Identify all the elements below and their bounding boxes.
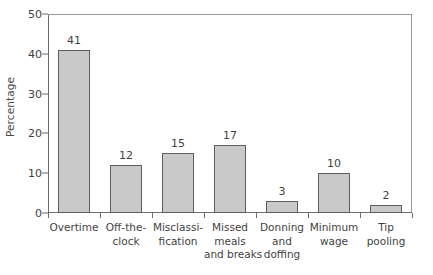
x-axis-category-label-line: doffing bbox=[256, 248, 308, 262]
bar-value-label: 41 bbox=[67, 35, 81, 46]
x-axis-category-label-line: Minimum bbox=[308, 221, 360, 235]
x-axis-tick-mark bbox=[360, 213, 361, 218]
bar-value-label: 15 bbox=[171, 138, 185, 149]
x-axis-tick-mark bbox=[256, 213, 257, 218]
x-axis-category-labels: OvertimeOff-the-clockMisclassi-ficationM… bbox=[48, 221, 412, 273]
bar bbox=[58, 50, 90, 213]
bar-value-label: 3 bbox=[279, 186, 286, 197]
x-axis-category-label-line: clock bbox=[100, 235, 152, 249]
y-axis-tick-label: 40 bbox=[18, 48, 42, 59]
bar-slot: 15 bbox=[152, 14, 204, 213]
x-axis-category-label-line: Misclassi- bbox=[152, 221, 204, 235]
y-axis-tick-labels: 01020304050 bbox=[18, 0, 42, 275]
x-axis-tick-mark bbox=[100, 213, 101, 218]
bar-slot: 10 bbox=[308, 14, 360, 213]
x-axis-category-label-line: Donning bbox=[256, 221, 308, 235]
bar-slot: 2 bbox=[360, 14, 412, 213]
bar bbox=[110, 165, 142, 213]
x-axis-category-label: Missedmealsand breaks bbox=[204, 221, 256, 262]
x-axis-category-label-line: and breaks bbox=[204, 248, 256, 262]
bar-value-label: 17 bbox=[223, 130, 237, 141]
x-axis-category-label: Misclassi-fication bbox=[152, 221, 204, 248]
bar-slot: 41 bbox=[48, 14, 100, 213]
bar bbox=[266, 201, 298, 213]
y-axis-tick-label: 50 bbox=[18, 9, 42, 20]
x-axis-category-label-line: Missed bbox=[204, 221, 256, 235]
x-axis-category-label: Off-the-clock bbox=[100, 221, 152, 248]
x-axis-tick-mark bbox=[204, 213, 205, 218]
bar-value-label: 10 bbox=[327, 158, 341, 169]
bar-value-label: 2 bbox=[383, 190, 390, 201]
x-axis-tick-mark bbox=[308, 213, 309, 218]
x-axis-category-label: Donninganddoffing bbox=[256, 221, 308, 262]
bars-layer: 411215173102 bbox=[48, 14, 412, 213]
y-axis-tick-label: 20 bbox=[18, 128, 42, 139]
bar bbox=[214, 145, 246, 213]
y-axis-tick-label: 30 bbox=[18, 88, 42, 99]
bar-chart: Percentage 01020304050 411215173102 Over… bbox=[0, 0, 433, 275]
x-axis-category-label-line: Off-the- bbox=[100, 221, 152, 235]
x-axis-category-label-line: wage bbox=[308, 235, 360, 249]
x-axis-category-label-line: fication bbox=[152, 235, 204, 249]
bar bbox=[370, 205, 402, 213]
bar bbox=[318, 173, 350, 213]
y-axis-tick-label: 10 bbox=[18, 168, 42, 179]
y-axis-title: Percentage bbox=[0, 0, 20, 213]
x-axis-category-label: Minimumwage bbox=[308, 221, 360, 248]
x-axis-tick-mark bbox=[48, 213, 49, 218]
x-axis-category-label-line: meals bbox=[204, 235, 256, 249]
x-axis-tick-mark bbox=[152, 213, 153, 218]
x-axis-category-label-line: and bbox=[256, 235, 308, 249]
x-axis-category-label-line: pooling bbox=[360, 235, 412, 249]
bar-slot: 12 bbox=[100, 14, 152, 213]
bar-value-label: 12 bbox=[119, 150, 133, 161]
bar-slot: 17 bbox=[204, 14, 256, 213]
x-axis-category-label: Overtime bbox=[48, 221, 100, 235]
y-axis-tick-label: 0 bbox=[18, 208, 42, 219]
x-axis-category-label-line: Tip bbox=[360, 221, 412, 235]
bar bbox=[162, 153, 194, 213]
x-axis-category-label: Tippooling bbox=[360, 221, 412, 248]
y-axis-title-text: Percentage bbox=[4, 76, 16, 136]
x-axis-category-label-line: Overtime bbox=[48, 221, 100, 235]
bar-slot: 3 bbox=[256, 14, 308, 213]
x-axis-tick-mark bbox=[412, 213, 413, 218]
